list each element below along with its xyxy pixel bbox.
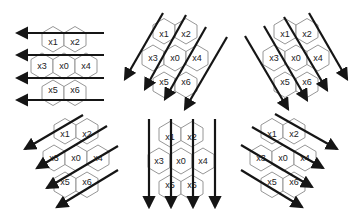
arrow-down-left-icon: [185, 37, 227, 109]
cell-x3: x3: [148, 53, 158, 63]
cell-x4: x4: [198, 156, 208, 166]
panel-p6: x1 x2 x3 x0 x4 x5 x6: [241, 114, 337, 207]
cell-x6: x6: [181, 77, 191, 87]
cell-x0: x0: [59, 61, 69, 71]
cell-x4: x4: [81, 61, 91, 71]
cell-x6: x6: [302, 77, 312, 87]
cell-x1: x1: [60, 129, 70, 139]
cell-x6: x6: [70, 85, 80, 95]
cell-x0: x0: [291, 53, 301, 63]
cell-x2: x2: [302, 29, 312, 39]
cell-x0: x0: [71, 153, 81, 163]
hex-scan-diagram: x1 x2 x3 x0 x4 x5 x6 x1 x2 x3 x0 x4 x5 x…: [0, 0, 364, 220]
arrow-down-left-icon: [125, 13, 163, 79]
cell-x5: x5: [159, 77, 169, 87]
cell-x1: x1: [159, 29, 169, 39]
cell-x3: x3: [269, 53, 279, 63]
cell-x4: x4: [192, 53, 202, 63]
panel-p5: x1 x2 x3 x0 x4 x5 x6: [148, 119, 215, 207]
cell-x3: x3: [154, 156, 164, 166]
cell-x1: x1: [48, 37, 58, 47]
cell-x4: x4: [313, 53, 323, 63]
cell-x5: x5: [280, 77, 290, 87]
cell-x1: x1: [280, 29, 290, 39]
cell-x3: x3: [37, 61, 47, 71]
cell-x0: x0: [278, 153, 288, 163]
arrow-down-right-icon: [245, 36, 288, 109]
cell-x2: x2: [181, 29, 191, 39]
panel-p1: x1 x2 x3 x0 x4 x5 x6: [17, 27, 104, 106]
panel-p3: x1 x2 x3 x0 x4 x5 x6: [245, 13, 347, 109]
panel-p2: x1 x2 x3 x0 x4 x5 x6: [125, 13, 227, 109]
panel-p4: x1 x2 x3 x0 x4 x5 x6: [25, 115, 118, 207]
cell-x0: x0: [170, 53, 180, 63]
cell-x5: x5: [48, 85, 58, 95]
cell-x2: x2: [70, 37, 80, 47]
cell-x2: x2: [289, 129, 299, 139]
cell-x0: x0: [176, 156, 186, 166]
